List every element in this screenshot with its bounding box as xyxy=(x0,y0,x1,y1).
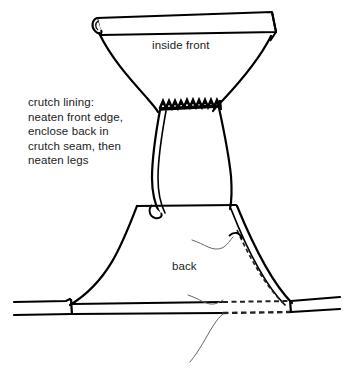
hem-top-line-right-tail xyxy=(291,297,340,301)
crutch-panel-left-inner xyxy=(158,111,166,213)
crutch-seam-stitch-group xyxy=(160,100,221,110)
label-back: back xyxy=(172,259,197,273)
back-panel-group xyxy=(70,205,292,305)
front-right-side-seam xyxy=(213,36,271,111)
label-inside-front: inside front xyxy=(152,38,209,52)
back-panel-left-edge xyxy=(70,206,137,305)
hem-bottom-line-right-tail xyxy=(291,309,340,312)
waistband-group xyxy=(93,12,276,41)
back-panel-right-edge-inner xyxy=(231,209,285,305)
back-panel-top-edge xyxy=(137,205,236,206)
label-crutch-lining-instructions: crutch lining: neaten front edge, enclos… xyxy=(28,95,123,168)
back-panel-right-edge-outer xyxy=(237,206,292,303)
hem-band-group xyxy=(14,297,340,315)
garment-illustration xyxy=(0,0,352,376)
hem-left-end-cap xyxy=(71,299,72,315)
waistband-top-edge xyxy=(97,12,276,35)
hem-right-end-cap xyxy=(290,300,291,313)
leader-line-hem-lower xyxy=(190,314,223,362)
hem-top-line xyxy=(14,299,70,302)
hem-top-line-main xyxy=(72,302,222,304)
leader-line-upper-back xyxy=(192,237,233,249)
crutch-panel-right-edge xyxy=(219,108,232,209)
sewing-diagram: inside front back crutch lining: neaten … xyxy=(0,0,352,376)
hem-bottom-line-main xyxy=(72,313,222,314)
hem-bottom-line-dashed xyxy=(223,312,290,313)
hem-top-line-dashed xyxy=(223,301,290,302)
crutch-panel-group xyxy=(150,108,232,218)
leader-lines-group xyxy=(188,237,233,362)
hem-bottom-line-left-tail xyxy=(14,314,72,315)
